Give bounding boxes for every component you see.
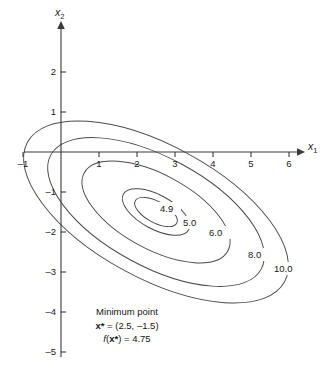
xtick-label-5: 5 — [248, 159, 253, 169]
annotation-line-fvalue: f(x*) = 4.75 — [67, 332, 187, 346]
y-axis-label-sub: 2 — [60, 12, 64, 21]
xtick-label-3: 3 — [172, 159, 177, 169]
contour-6 — [66, 140, 245, 283]
xtick-label--1: –1 — [18, 159, 29, 169]
contour-label-4-9: 4.9 — [160, 204, 173, 214]
annotation-f-value: ) = 4.75 — [118, 333, 150, 344]
x-axis-label-sub: 1 — [313, 146, 317, 155]
contour-label-10-0: 10.0 — [274, 264, 293, 274]
contour-plot-figure: –1 1 2 3 4 5 6 2 1 –1 –2 –3 –4 –5 x1 x2 … — [0, 0, 327, 367]
minimum-point-annotation: Minimum point x* = (2.5, –1.5) f(x*) = 4… — [67, 305, 187, 346]
y-axis-label: x2 — [55, 7, 64, 21]
annotation-line-title: Minimum point — [67, 305, 187, 319]
ytick-label--4: –4 — [45, 307, 56, 317]
xtick-label-2: 2 — [134, 159, 139, 169]
x-axis-label: x1 — [308, 141, 317, 155]
ytick-label--2: –2 — [45, 227, 56, 237]
ytick-label-1: 1 — [51, 107, 56, 117]
ytick-label--3: –3 — [45, 267, 56, 277]
annotation-line-xstar: x* = (2.5, –1.5) — [67, 319, 187, 333]
y-axis-arrow — [57, 21, 65, 29]
contour-label-6-0: 6.0 — [209, 228, 222, 238]
x-axis-arrow — [297, 148, 305, 156]
ytick-label--5: –5 — [45, 347, 56, 357]
contour-10 — [0, 84, 316, 340]
ytick-label--1: –1 — [45, 187, 56, 197]
contour-5 — [115, 179, 197, 245]
contour-label-8-0: 8.0 — [248, 250, 261, 260]
xtick-label-1: 1 — [96, 159, 101, 169]
ytick-label-2: 2 — [51, 67, 56, 77]
annotation-x-value: = (2.5, –1.5) — [104, 320, 158, 331]
xtick-label-4: 4 — [210, 159, 215, 169]
xtick-label-6: 6 — [286, 159, 291, 169]
contour-group — [0, 84, 316, 340]
contour-label-5-0: 5.0 — [183, 218, 196, 228]
